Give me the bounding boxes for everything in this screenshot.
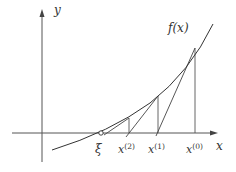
x-axis-label: x <box>216 140 223 152</box>
tangent-at-x0 <box>156 48 195 136</box>
x0-label-sup: (0) <box>192 142 203 151</box>
xi-label: ξ <box>95 143 102 155</box>
x2-label: x(2) <box>118 143 135 155</box>
x2-label-sup: (2) <box>124 142 135 151</box>
x-axis-arrow-icon <box>210 131 218 136</box>
x0-label: x(0) <box>186 143 203 155</box>
x1-label-sup: (1) <box>154 142 165 151</box>
tangent-at-x2 <box>104 118 129 135</box>
function-label: f(x) <box>168 22 189 34</box>
root-marker-icon <box>99 131 103 135</box>
x1-label: x(1) <box>148 143 165 155</box>
y-axis-label: y <box>54 4 61 16</box>
tangent-at-x1 <box>126 96 158 137</box>
y-axis-arrow-icon <box>40 9 45 17</box>
function-curve <box>52 24 213 150</box>
